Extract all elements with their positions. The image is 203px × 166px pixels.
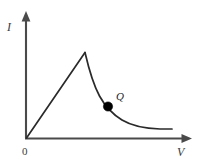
plot-canvas xyxy=(0,0,203,166)
y-axis-label: I xyxy=(7,21,11,33)
iv-curve-figure: I V 0 Q xyxy=(0,0,203,166)
origin-label: 0 xyxy=(22,146,28,157)
point-q-label: Q xyxy=(116,91,124,102)
curve-rising-segment xyxy=(27,53,86,139)
x-axis-label: V xyxy=(177,146,184,158)
curve-decaying-segment xyxy=(85,53,172,130)
x-axis-arrowhead xyxy=(182,134,193,143)
y-axis xyxy=(22,11,31,139)
x-axis xyxy=(25,134,192,143)
iv-characteristic-curve xyxy=(27,53,173,139)
y-axis-arrowhead xyxy=(22,11,31,22)
point-q-marker-group[interactable] xyxy=(103,102,112,111)
point-q-marker[interactable] xyxy=(103,102,112,111)
